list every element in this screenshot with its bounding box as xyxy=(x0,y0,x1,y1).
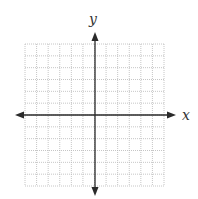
arrow-down-icon xyxy=(92,187,99,196)
axes xyxy=(15,32,176,196)
coordinate-plane: x y xyxy=(0,0,198,199)
arrow-left-icon xyxy=(15,112,24,119)
x-axis-label: x xyxy=(182,107,190,123)
y-axis-label: y xyxy=(88,11,98,27)
arrow-up-icon xyxy=(92,32,99,41)
arrow-right-icon xyxy=(167,112,176,119)
